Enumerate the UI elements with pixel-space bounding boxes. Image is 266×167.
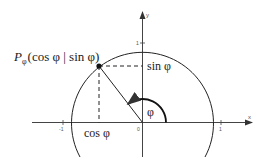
x-axis-label: x [248, 114, 251, 120]
unit-circle-diagram: x y -1 0 1 1 Pφ(cos φ | sin φ) sin φ cos… [0, 0, 266, 167]
y-axis-label: y [146, 12, 149, 18]
angle-label: φ [147, 105, 154, 119]
point-label: Pφ(cos φ | sin φ) [13, 49, 99, 66]
tick-label-origin: 0 [137, 126, 140, 132]
diagram-canvas: x y -1 0 1 1 Pφ(cos φ | sin φ) sin φ cos… [0, 0, 266, 167]
tick-label-neg1: -1 [59, 126, 64, 132]
tick-label-y1: 1 [136, 40, 139, 46]
point-p [96, 63, 101, 68]
cos-label: cos φ [84, 126, 110, 140]
sin-label: sin φ [147, 59, 171, 73]
tick-label-1: 1 [219, 126, 222, 132]
radius-line [99, 66, 143, 123]
